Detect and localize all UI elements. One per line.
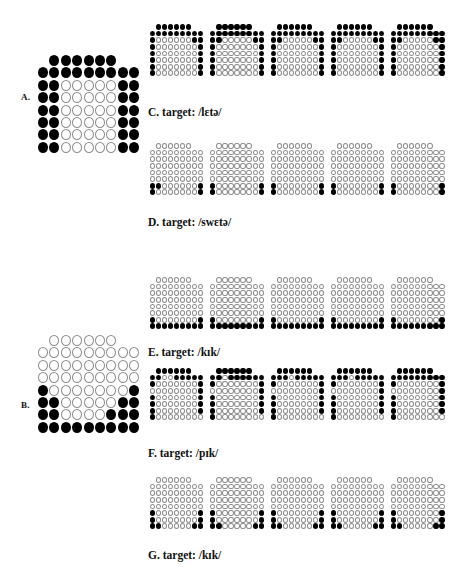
node-dot-off <box>174 310 179 316</box>
node-dot-off <box>415 310 420 316</box>
node-dot-blank <box>319 368 324 374</box>
node-dot-off <box>439 150 444 156</box>
node-dot-off <box>427 170 432 176</box>
node-dot-off <box>319 497 324 503</box>
node-dot-off <box>253 170 258 176</box>
node-dot-on <box>198 64 203 70</box>
node-dot-off <box>174 523 179 529</box>
node-dot-off <box>253 510 258 516</box>
node-dot-off <box>216 388 221 394</box>
node-dot-on <box>391 395 396 401</box>
node-dot-off <box>222 510 227 516</box>
node-dot-off <box>307 395 312 401</box>
node-dot-off <box>421 408 426 414</box>
node-dot-off <box>246 64 251 70</box>
node-dot-off <box>295 477 300 483</box>
node-dot-off <box>301 51 306 57</box>
node-dot-off <box>295 388 300 394</box>
node-dot-on <box>439 31 444 37</box>
node-dot-blank <box>331 277 336 283</box>
node-dot-off <box>156 497 161 503</box>
node-dot-off <box>168 317 173 323</box>
grid-row <box>210 297 264 304</box>
node-dot-off <box>331 150 336 156</box>
node-dot-off <box>216 183 221 189</box>
node-dot-off <box>156 156 161 162</box>
node-dot-off <box>379 304 384 310</box>
node-dot-on <box>84 55 94 66</box>
grid-row <box>331 64 385 71</box>
node-dot-off <box>106 397 116 408</box>
grid-row <box>391 297 445 304</box>
node-dot-off <box>373 401 378 407</box>
node-dot-off <box>361 297 366 303</box>
node-dot-on <box>433 323 438 329</box>
node-dot-off <box>168 64 173 70</box>
node-dot-off <box>174 477 179 483</box>
node-dot-off <box>409 70 414 76</box>
node-dot-on <box>198 388 203 394</box>
node-dot-off <box>198 284 203 290</box>
node-dot-off <box>283 170 288 176</box>
node-dot-off <box>106 372 116 383</box>
node-dot-off <box>271 150 276 156</box>
node-dot-off <box>222 37 227 43</box>
node-dot-off <box>301 183 306 189</box>
grid-row <box>331 497 385 504</box>
node-dot-off <box>409 317 414 323</box>
node-dot-on <box>343 368 348 374</box>
node-dot-off <box>228 408 233 414</box>
node-dot-off <box>415 150 420 156</box>
node-dot-off <box>72 105 82 116</box>
node-dot-off <box>343 44 348 50</box>
node-dot-on <box>433 31 438 37</box>
node-dot-off <box>349 290 354 296</box>
node-dot-on <box>439 375 444 381</box>
node-dot-off <box>162 51 167 57</box>
node-dot-off <box>253 51 258 57</box>
node-dot-off <box>337 156 342 162</box>
node-dot-off <box>373 284 378 290</box>
node-dot-on <box>210 64 215 70</box>
node-dot-off <box>106 142 116 153</box>
node-dot-off <box>313 163 318 169</box>
node-dot-off <box>421 37 426 43</box>
node-dot-off <box>331 490 336 496</box>
node-dot-off <box>246 381 251 387</box>
node-dot-off <box>95 92 105 103</box>
node-dot-on <box>216 31 221 37</box>
node-dot-off <box>307 163 312 169</box>
node-dot-on <box>439 381 444 387</box>
node-dot-off <box>361 156 366 162</box>
node-dot-on <box>210 517 215 523</box>
node-dot-off <box>216 381 221 387</box>
node-dot-off <box>234 517 239 523</box>
node-dot-on <box>391 510 396 516</box>
node-dot-off <box>403 170 408 176</box>
node-dot-off <box>289 477 294 483</box>
node-dot-off <box>277 484 282 490</box>
node-dot-off <box>174 143 179 149</box>
node-dot-off <box>403 414 408 420</box>
node-dot-blank <box>198 477 203 483</box>
node-dot-off <box>277 51 282 57</box>
node-dot-on <box>222 24 227 30</box>
node-dot-off <box>192 414 197 420</box>
node-dot-off <box>361 484 366 490</box>
node-dot-off <box>397 401 402 407</box>
node-dot-off <box>277 170 282 176</box>
node-dot-off <box>277 176 282 182</box>
node-dot-off <box>162 150 167 156</box>
node-dot-off <box>355 484 360 490</box>
node-dot-off <box>409 150 414 156</box>
node-dot-on <box>259 57 264 63</box>
node-dot-off <box>168 395 173 401</box>
node-dot-off <box>277 297 282 303</box>
node-dot-off <box>295 497 300 503</box>
node-dot-off <box>240 277 245 283</box>
node-dot-off <box>283 388 288 394</box>
node-dot-off <box>192 170 197 176</box>
node-dot-off <box>180 510 185 516</box>
node-dot-off <box>313 490 318 496</box>
node-dot-on <box>403 24 408 30</box>
